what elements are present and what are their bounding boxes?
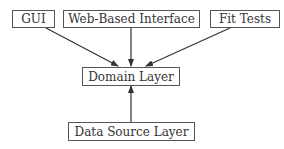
domain-layer-label: Domain Layer [88, 70, 174, 84]
web-interface-node: Web-Based Interface [63, 10, 200, 28]
architecture-diagram: GUI Web-Based Interface Fit Tests Domain… [0, 0, 284, 149]
arrow-fit-to-domain [146, 28, 230, 66]
gui-node: GUI [12, 10, 55, 28]
data-source-layer-node: Data Source Layer [68, 122, 195, 141]
fit-tests-label: Fit Tests [219, 12, 271, 26]
web-interface-label: Web-Based Interface [68, 12, 194, 26]
arrow-gui-to-domain [46, 28, 118, 66]
gui-label: GUI [21, 12, 45, 26]
data-source-layer-label: Data Source Layer [75, 125, 189, 139]
domain-layer-node: Domain Layer [82, 67, 180, 86]
fit-tests-node: Fit Tests [210, 10, 280, 28]
